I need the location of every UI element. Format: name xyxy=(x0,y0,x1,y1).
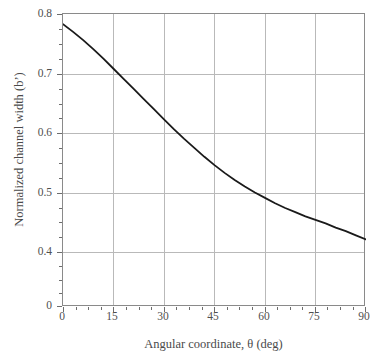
y-tick-label: 0 xyxy=(18,299,52,311)
y-axis-title: Normalized channel width (bʼ) xyxy=(12,45,27,255)
y-tick-major xyxy=(57,133,62,134)
chart-figure: 0 15 30 45 60 75 90 0.8 0.7 0.6 0.5 0.4 … xyxy=(0,0,382,361)
x-tick-label: 75 xyxy=(294,310,334,322)
y-tick-minor xyxy=(59,280,62,281)
x-tick-minor xyxy=(88,307,89,310)
x-tick-minor xyxy=(290,307,291,310)
x-tick-label: 45 xyxy=(193,310,233,322)
x-tick-label: 30 xyxy=(143,310,183,322)
series-polyline xyxy=(63,24,366,239)
y-tick-minor xyxy=(59,104,62,105)
y-tick-major xyxy=(57,74,62,75)
y-tick-minor xyxy=(59,163,62,164)
x-tick-label: 0 xyxy=(42,310,82,322)
y-tick-minor xyxy=(59,208,62,209)
y-tick-minor xyxy=(59,59,62,60)
y-tick-major xyxy=(57,14,62,15)
y-tick-minor xyxy=(59,148,62,149)
y-tick-minor xyxy=(59,222,62,223)
y-tick-major xyxy=(57,193,62,194)
x-tick-minor xyxy=(139,307,140,310)
x-tick-minor xyxy=(239,307,240,310)
x-tick-minor xyxy=(340,307,341,310)
y-tick-minor xyxy=(59,266,62,267)
x-tick-label: 90 xyxy=(344,310,382,322)
y-tick-minor xyxy=(59,118,62,119)
y-tick-minor xyxy=(59,29,62,30)
y-tick-minor xyxy=(59,178,62,179)
y-tick-major xyxy=(57,252,62,253)
y-tick-minor xyxy=(59,293,62,294)
x-tick-minor xyxy=(189,307,190,310)
y-tick-minor xyxy=(59,44,62,45)
y-tick-minor xyxy=(59,237,62,238)
x-tick-label: 15 xyxy=(92,310,132,322)
y-tick-major xyxy=(57,306,62,307)
y-tick-label: 0.8 xyxy=(18,7,52,19)
x-axis-title: Angular coordinate, θ (deg) xyxy=(62,337,365,352)
plot-area xyxy=(62,13,365,306)
data-curve xyxy=(63,14,366,307)
y-tick-minor xyxy=(59,89,62,90)
x-tick-label: 60 xyxy=(244,310,284,322)
